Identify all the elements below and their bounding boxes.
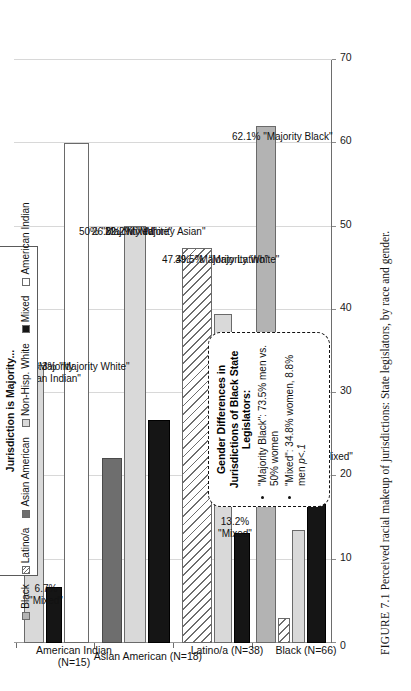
legend-item-mixed[interactable]: Mixed — [20, 296, 31, 334]
legend-item-black[interactable]: Black — [20, 584, 31, 619]
data-label-black-majority-black: 62.1% "Majority Black" — [232, 131, 332, 143]
legend-swatch-black-icon — [22, 612, 30, 620]
figure-caption: FIGURE 7.1 Perceived racial makeup of ju… — [379, 231, 391, 655]
gridline-40 — [14, 309, 332, 310]
chart-legend: Jurisdiction is Majority... Black Latino… — [0, 246, 38, 576]
figure-canvas: 0 10 20 30 40 50 60 70 Black (N=66) Lati… — [0, 0, 411, 691]
callout-title: Gender Differences in Jurisdictions of B… — [215, 342, 253, 497]
tick-50 — [332, 226, 336, 227]
tick-label-50: 50 — [340, 218, 352, 230]
bar-latino-mixed — [234, 533, 250, 643]
callout-bullet-majority-black: "Majority Black": 73.5% men vs. 50% wome… — [257, 342, 281, 486]
rotated-page-wrapper: 0 10 20 30 40 50 60 70 Black (N=66) Lati… — [0, 0, 411, 691]
data-label-latino-mixed: 13.2% "Mixed" — [212, 516, 258, 539]
data-label-amind-mixed: 6.7% "Mixed" — [28, 583, 64, 606]
legend-items-row: Black Latino/a Asian American Non-Hisp. … — [20, 255, 31, 567]
legend-label-non-hisp-white: Non-Hisp. White — [20, 343, 31, 416]
legend-swatch-mixed-icon — [22, 325, 30, 333]
tick-label-60: 60 — [340, 134, 352, 146]
tick-10 — [332, 559, 336, 560]
bar-black-majority-white — [292, 530, 305, 643]
gridline-70 — [14, 59, 332, 60]
tick-label-40: 40 — [340, 301, 352, 313]
legend-swatch-american-indian-icon — [22, 278, 30, 286]
tick-label-10: 10 — [340, 551, 352, 563]
legend-swatch-white-icon — [22, 419, 30, 427]
legend-label-american-indian: American Indian — [20, 202, 31, 274]
legend-swatch-asian-icon — [22, 510, 30, 518]
legend-item-non-hisp-white[interactable]: Non-Hisp. White — [20, 343, 31, 427]
tick-label-70: 70 — [340, 51, 352, 63]
callout-pvalue: p<.1 — [296, 444, 307, 464]
callout-bullet-mixed: "Mixed": 34.8% women, 8.8% men p<.1 — [284, 342, 308, 486]
gridline-10 — [14, 559, 332, 560]
legend-swatch-latino-icon — [22, 566, 30, 574]
figure-caption-text: Perceived racial makeup of jurisdictions… — [379, 231, 391, 591]
category-label-amind: American Indian (N=15) — [19, 644, 129, 668]
data-label-amind-majority-white: 33.3% "Majority White" — [28, 361, 130, 373]
callout-bullet-mixed-text: "Mixed": 34.8% women, 8.8% men — [284, 355, 307, 486]
bar-asian-majority-white — [124, 226, 146, 643]
category-label-amind-text: American Indian (N=15) — [36, 644, 112, 668]
figure-number: FIGURE 7.1 — [379, 593, 391, 655]
legend-item-latino[interactable]: Latino/a — [20, 528, 31, 575]
tick-70 — [332, 59, 336, 60]
bar-black-majority-latino — [278, 618, 290, 643]
bar-asian-mixed — [148, 420, 170, 643]
legend-label-black: Black — [20, 584, 31, 608]
data-label-asian-majority-asian: 22.2% "Majority Asian" — [105, 226, 205, 238]
gender-differences-callout: Gender Differences in Jurisdictions of B… — [208, 332, 330, 507]
legend-title: Jurisdiction is Majority... — [4, 255, 16, 567]
legend-label-latino: Latino/a — [20, 528, 31, 564]
legend-item-american-indian[interactable]: American Indian — [20, 202, 31, 285]
tick-30 — [332, 392, 336, 393]
legend-label-mixed: Mixed — [20, 296, 31, 323]
category-axis-line — [331, 60, 332, 643]
tick-label-20: 20 — [340, 467, 352, 479]
callout-bullet-list: "Majority Black": 73.5% men vs. 50% wome… — [257, 342, 308, 497]
legend-item-asian-american[interactable]: Asian American — [20, 437, 31, 517]
bar-amind-majority-amind — [64, 143, 89, 643]
tick-label-30: 30 — [340, 384, 352, 396]
data-label-latino-majority-white: 39.5% "Majority White" — [175, 254, 279, 266]
tick-0 — [332, 642, 336, 643]
tick-40 — [332, 309, 336, 310]
legend-label-asian-american: Asian American — [20, 437, 31, 506]
bar-asian-majority-asian — [102, 458, 122, 643]
tick-20 — [332, 475, 336, 476]
tick-60 — [332, 142, 336, 143]
